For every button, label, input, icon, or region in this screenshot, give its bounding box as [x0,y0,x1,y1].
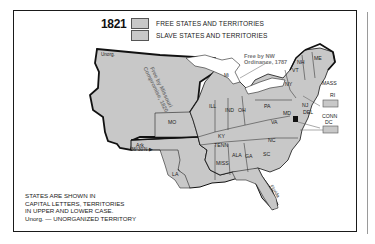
label-unorg: Unorg. [101,52,115,57]
label-nj: NJ [302,102,309,108]
label-va: VA [271,119,278,125]
label-sc: SC [263,151,270,157]
label-la: LA [172,171,179,177]
label-tenn: TENN [214,142,228,148]
map-year: 1821 [101,17,127,31]
label-mass: MASS [322,80,337,86]
label-me: ME [314,55,322,61]
label-ky: KY [218,133,225,139]
label-nw-line2: Ordinance, 1787 [244,59,287,65]
ri-box [323,100,338,107]
dc-marker [293,116,298,122]
label-dc: DC [325,119,333,125]
label-nh: NH [297,59,305,65]
label-oh: OH [238,107,246,113]
legend-slave: SLAVE STATES AND TERRITORIES [131,30,267,41]
map-note: STATES ARE SHOWN IN CAPITAL LETTERS, TER… [25,192,136,222]
label-ny: NY [285,81,293,87]
label-vt: VT [292,67,299,73]
legend-slave-swatch [131,30,149,41]
legend-slave-label: SLAVE STATES AND TERRITORIES [156,32,267,39]
label-mo: MO [168,119,176,125]
label-del: DEL [303,109,313,115]
note-line-1: STATES ARE SHOWN IN [25,192,136,200]
legend-free-swatch [131,18,149,29]
dc-box [323,126,338,133]
label-md: MD [283,110,291,116]
label-nc: NC [268,137,276,143]
label-ark: Ark [136,142,144,148]
note-line-4: Unorg. — UNORGANIZED TERRITORY [25,215,136,223]
label-ill: ILL [209,103,216,109]
label-pa: PA [264,103,271,109]
note-line-3: IN UPPER AND LOWER CASE. [25,207,136,215]
legend-free: FREE STATES AND TERRITORIES [131,18,264,29]
note-line-2: CAPITAL LETTERS, TERRITORIES [25,200,136,208]
label-ind: IND [225,107,234,113]
label-ga: GA [245,153,253,159]
label-miss: MISS [216,160,229,166]
label-ri: RI [330,92,335,98]
label-mi: Mi [224,73,229,78]
label-ala: ALA [232,152,242,158]
legend-free-label: FREE STATES AND TERRITORIES [156,20,264,27]
